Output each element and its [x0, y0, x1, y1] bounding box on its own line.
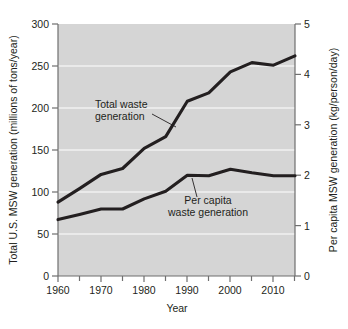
msw-generation-line-chart: 300 250 200 150 100 50 0 5 4 3 2 1 0: [0, 0, 348, 329]
left-tick-label-200: 200: [31, 102, 49, 114]
x-axis-ticks: [58, 276, 295, 282]
x-tick-label-2010: 2010: [261, 284, 285, 296]
right-axis-title: Per capita MSW generation (kg/person/day…: [327, 48, 339, 252]
per-capita-annotation-line1: Per capita: [184, 194, 231, 206]
total-waste-annotation-line1: Total waste: [95, 98, 148, 110]
x-axis-title: Year: [166, 302, 188, 314]
x-tick-label-2000: 2000: [218, 284, 242, 296]
right-axis-ticks: [295, 24, 301, 276]
x-tick-label-1970: 1970: [89, 284, 113, 296]
x-tick-label-1980: 1980: [132, 284, 156, 296]
right-tick-label-2: 2: [304, 169, 310, 181]
left-tick-label-250: 250: [31, 60, 49, 72]
left-tick-label-50: 50: [37, 228, 49, 240]
chart-figure: 300 250 200 150 100 50 0 5 4 3 2 1 0: [0, 0, 348, 329]
left-axis-title: Total U.S. MSW generation (millions of t…: [7, 35, 19, 264]
left-tick-label-100: 100: [31, 186, 49, 198]
x-axis-tick-labels: 1960 1970 1980 1990 2000 2010: [46, 284, 285, 296]
right-tick-label-3: 3: [304, 119, 310, 131]
right-tick-label-1: 1: [304, 220, 310, 232]
left-axis-ticks: [52, 24, 58, 276]
right-axis-tick-labels: 5 4 3 2 1 0: [304, 18, 310, 282]
right-tick-label-4: 4: [304, 68, 310, 80]
left-tick-label-300: 300: [31, 18, 49, 30]
x-tick-label-1960: 1960: [46, 284, 70, 296]
per-capita-annotation-line2: waste generation: [167, 206, 248, 218]
left-axis-tick-labels: 300 250 200 150 100 50 0: [31, 18, 49, 282]
x-tick-label-1990: 1990: [175, 284, 199, 296]
total-waste-annotation-line2: generation: [95, 110, 145, 122]
left-tick-label-0: 0: [43, 270, 49, 282]
right-tick-label-0: 0: [304, 270, 310, 282]
right-tick-label-5: 5: [304, 18, 310, 30]
left-tick-label-150: 150: [31, 144, 49, 156]
